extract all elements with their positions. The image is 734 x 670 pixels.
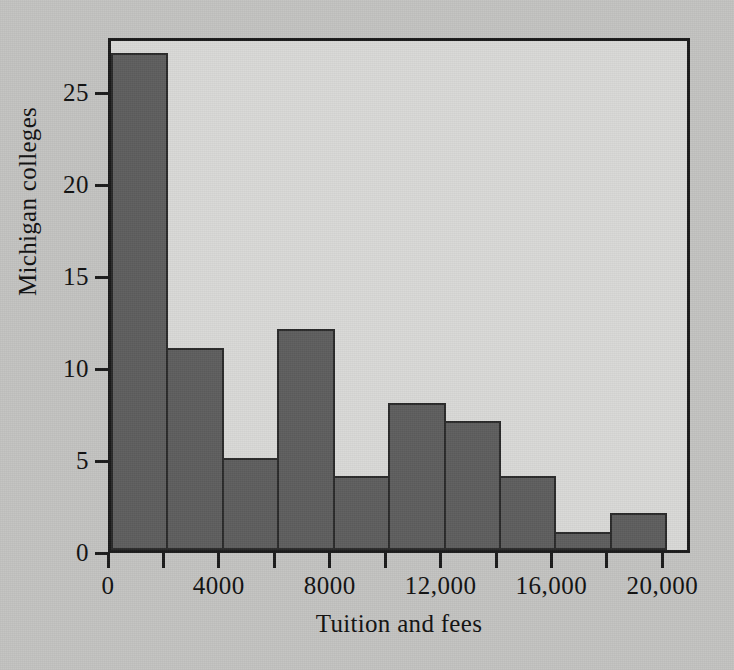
y-tick-label: 25 (63, 79, 89, 107)
x-tick-mark (107, 553, 110, 568)
x-tick-label: 12,000 (405, 572, 477, 600)
x-tick-label: 20,000 (626, 572, 698, 600)
y-tick-mark (95, 276, 108, 279)
x-minor-tick-mark (384, 553, 387, 568)
histogram-bar (111, 53, 168, 550)
histogram-bar (333, 476, 390, 550)
x-tick-label: 0 (102, 572, 115, 600)
x-tick-mark (550, 553, 553, 568)
x-tick-mark (328, 553, 331, 568)
histogram-figure: Michigan colleges 0510152025 04000800012… (0, 0, 734, 670)
x-minor-tick-mark (273, 553, 276, 568)
histogram-bar (388, 403, 445, 550)
y-tick-mark (95, 184, 108, 187)
y-tick-label: 0 (76, 539, 89, 567)
y-tick-label: 5 (76, 447, 89, 475)
histogram-bar (610, 513, 667, 550)
x-minor-tick-mark (162, 553, 165, 568)
x-minor-tick-mark (495, 553, 498, 568)
y-tick-mark (95, 368, 108, 371)
x-tick-mark (439, 553, 442, 568)
histogram-bar (499, 476, 556, 550)
x-tick-mark (217, 553, 220, 568)
x-tick-label: 16,000 (516, 572, 588, 600)
x-minor-tick-mark (605, 553, 608, 568)
y-tick-mark (95, 460, 108, 463)
plot-frame (108, 38, 690, 553)
histogram-bar (222, 458, 279, 550)
y-tick-label: 20 (63, 171, 89, 199)
x-axis-title: Tuition and fees (108, 610, 690, 638)
y-tick-label: 15 (63, 263, 89, 291)
x-axis: 04000800012,00016,00020,000 Tuition and … (108, 553, 690, 670)
x-tick-mark (661, 553, 664, 568)
x-tick-label: 8000 (304, 572, 356, 600)
histogram-bar (166, 348, 223, 550)
histogram-bar (277, 329, 334, 550)
histogram-bar (554, 532, 611, 550)
x-tick-label: 4000 (193, 572, 245, 600)
y-tick-mark (95, 92, 108, 95)
plot-area (111, 41, 687, 550)
y-tick-label: 10 (63, 355, 89, 383)
y-axis-title: Michigan colleges (14, 107, 42, 296)
histogram-bar (444, 421, 501, 550)
y-axis: Michigan colleges 0510152025 (0, 0, 108, 670)
